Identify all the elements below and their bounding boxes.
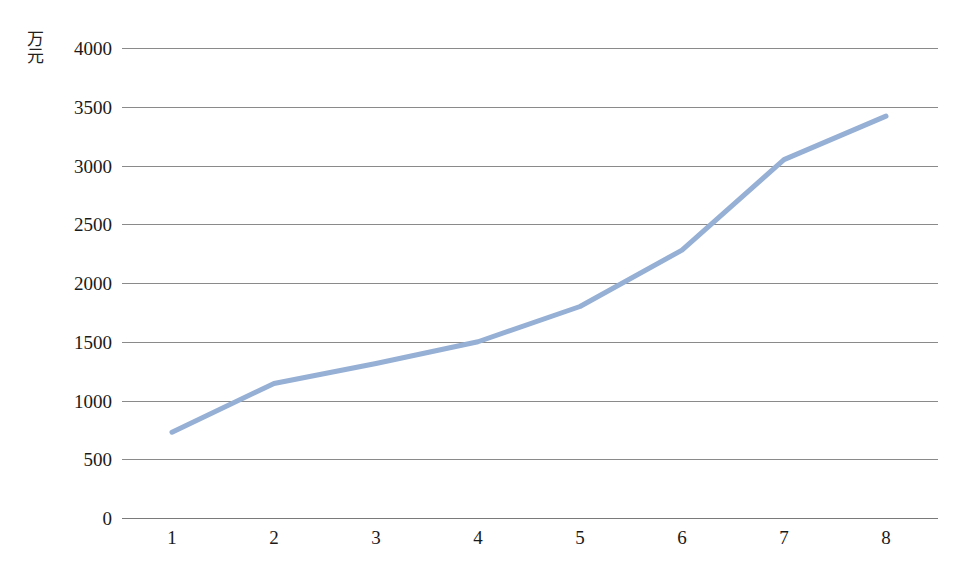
plot-area	[122, 48, 938, 518]
y-tick-label-3000: 3000	[40, 156, 112, 175]
x-tick-label-4: 4	[458, 528, 498, 547]
y-tick-label-1000: 1000	[40, 391, 112, 410]
y-tick-label-4000: 4000	[40, 39, 112, 58]
x-tick-label-8: 8	[866, 528, 906, 547]
series-line-path	[122, 48, 938, 518]
y-axis-tick-labels: 05001000150020002500300035004000	[32, 0, 112, 585]
x-tick-label-3: 3	[356, 528, 396, 547]
x-tick-label-1: 1	[152, 528, 192, 547]
x-tick-label-7: 7	[764, 528, 804, 547]
x-tick-label-6: 6	[662, 528, 702, 547]
x-tick-label-5: 5	[560, 528, 600, 547]
y-tick-label-1500: 1500	[40, 332, 112, 351]
x-axis-tick-labels: 12345678	[0, 528, 963, 568]
y-tick-label-0: 0	[40, 509, 112, 528]
y-tick-label-2000: 2000	[40, 274, 112, 293]
line-chart: 万元 05001000150020002500300035004000 1234…	[0, 0, 963, 585]
gridline-0	[122, 518, 938, 519]
y-tick-label-3500: 3500	[40, 97, 112, 116]
x-tick-label-2: 2	[254, 528, 294, 547]
y-tick-label-500: 500	[40, 450, 112, 469]
y-tick-label-2500: 2500	[40, 215, 112, 234]
